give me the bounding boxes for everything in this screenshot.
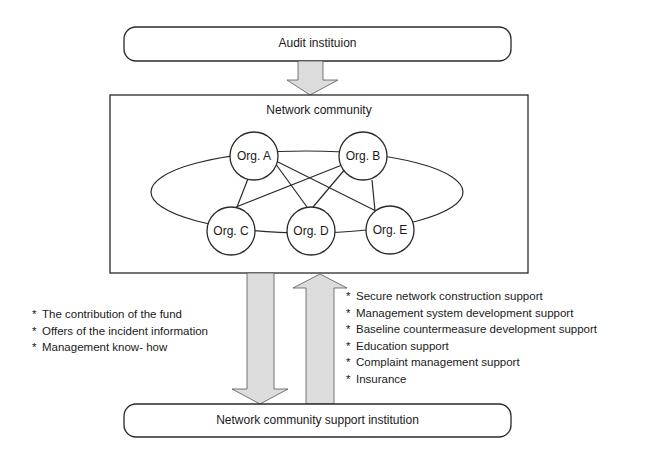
bullet-star: * [32,339,42,356]
list-item-text: Offers of the incident information [42,325,208,337]
network-community-title: Network community [110,103,528,117]
down-arrow-community-to-support [232,273,288,404]
node-label-org-a: Org. A [230,149,278,163]
up-arrow-support-to-community [293,274,347,404]
list-item-text: Complaint management support [356,356,520,368]
audit-institution-label: Audit instituion [124,36,511,50]
list-item-text: Insurance [356,373,407,385]
support-institution-label: Network community support institution [124,413,511,427]
support-services-list: *Secure network construction support *Ma… [346,288,597,387]
bullet-star: * [346,354,356,371]
list-item: *Management system development support [346,305,597,322]
bullet-star: * [346,338,356,355]
bullet-star: * [346,371,356,388]
list-item: *Education support [346,338,597,355]
bullet-star: * [32,306,42,323]
bullet-star: * [346,321,356,338]
bullet-star: * [346,305,356,322]
list-item: *Secure network construction support [346,288,597,305]
bullet-star: * [346,288,356,305]
list-item: *Management know- how [32,339,208,356]
list-item-text: Baseline countermeasure development supp… [356,323,597,335]
node-label-org-b: Org. B [339,149,387,163]
list-item-text: Secure network construction support [356,290,543,302]
list-item-text: The contribution of the fund [42,308,182,320]
list-item-text: Education support [356,340,449,352]
bullet-star: * [32,323,42,340]
node-label-org-d: Org. D [287,224,335,238]
list-item: *Offers of the incident information [32,323,208,340]
node-label-org-c: Org. C [207,224,255,238]
node-label-org-e: Org. E [366,223,414,237]
list-item: *Insurance [346,371,597,388]
down-arrow-audit-to-community [287,61,338,95]
list-item-text: Management know- how [42,341,167,353]
list-item: *Baseline countermeasure development sup… [346,321,597,338]
list-item: *Complaint management support [346,354,597,371]
list-item-text: Management system development support [356,307,573,319]
contribution-list: *The contribution of the fund *Offers of… [32,306,208,356]
list-item: *The contribution of the fund [32,306,208,323]
